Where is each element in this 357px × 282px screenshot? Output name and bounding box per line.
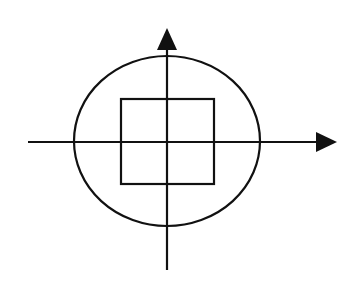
y-axis-arrow-icon (157, 28, 177, 50)
x-axis-arrow-icon (316, 132, 337, 152)
coordinate-diagram (0, 0, 357, 282)
